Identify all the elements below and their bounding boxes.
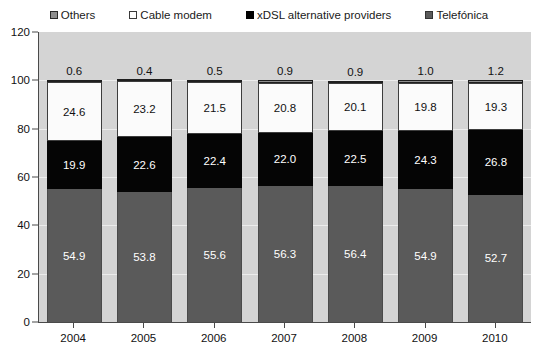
bar-value-label: 22.4 xyxy=(204,155,226,167)
x-axis-tick-mark xyxy=(73,323,74,328)
legend-item-telefonica: Telefónica xyxy=(425,9,488,21)
bar-segment-telefonica[interactable]: 56.4 xyxy=(328,186,383,322)
x-axis-label-2004: 2004 xyxy=(60,332,86,344)
x-axis-label-2005: 2005 xyxy=(131,332,157,344)
bar-segment-cable-modem[interactable]: 19.8 xyxy=(398,83,453,131)
chart-legend: Others Cable modem xDSL alternative prov… xyxy=(0,6,538,24)
legend-label-others: Others xyxy=(61,9,96,21)
bar-segment-telefonica[interactable]: 52.7 xyxy=(468,195,523,322)
legend-label-cable-modem: Cable modem xyxy=(140,9,212,21)
bar-value-label: 20.8 xyxy=(274,102,296,114)
bar-column-2010[interactable]: 52.726.819.31.2 xyxy=(468,32,523,322)
bar-value-label: 22.0 xyxy=(274,153,296,165)
stacked-bar-chart: Others Cable modem xDSL alternative prov… xyxy=(0,0,538,358)
x-axis-tick-mark xyxy=(284,323,285,328)
bar-segment-telefonica[interactable]: 54.9 xyxy=(47,189,102,322)
y-axis-tick-label: 120 xyxy=(11,26,30,38)
others-value-label: 0.5 xyxy=(187,65,242,77)
bar-column-2008[interactable]: 56.422.520.10.9 xyxy=(328,32,383,322)
cable-modem-swatch-icon xyxy=(129,11,137,19)
x-axis-label-2010: 2010 xyxy=(482,332,508,344)
bar-segment-xdsl[interactable]: 19.9 xyxy=(47,141,102,189)
y-axis-tick-label: 0 xyxy=(24,316,30,328)
x-axis-tick-mark xyxy=(143,323,144,328)
bar-value-label: 22.5 xyxy=(344,153,366,165)
bar-segment-others[interactable] xyxy=(328,81,383,83)
bar-segment-others[interactable] xyxy=(468,80,523,83)
x-axis-tick-mark xyxy=(425,323,426,328)
x-axis-tick-mark xyxy=(354,323,355,328)
others-swatch-icon xyxy=(50,11,58,19)
bar-segment-others[interactable] xyxy=(47,80,102,82)
bar-segment-others[interactable] xyxy=(258,80,313,82)
bar-value-label: 19.9 xyxy=(63,159,85,171)
others-value-label: 0.4 xyxy=(117,65,172,77)
others-value-label: 1.2 xyxy=(468,65,523,77)
y-axis-tick-label: 80 xyxy=(17,123,30,135)
bar-segment-xdsl[interactable]: 22.4 xyxy=(187,134,242,188)
telefonica-swatch-icon xyxy=(425,11,433,19)
bar-segment-xdsl[interactable]: 22.0 xyxy=(258,133,313,186)
bar-value-label: 54.9 xyxy=(63,250,85,262)
bar-segment-others[interactable] xyxy=(187,80,242,82)
bar-segment-cable-modem[interactable]: 24.6 xyxy=(47,82,102,141)
y-axis-tick-label: 20 xyxy=(17,268,30,280)
bar-segment-telefonica[interactable]: 54.9 xyxy=(398,189,453,322)
bar-value-label: 55.6 xyxy=(204,249,226,261)
bar-value-label: 56.4 xyxy=(344,248,366,260)
bar-segment-telefonica[interactable]: 56.3 xyxy=(258,186,313,322)
others-value-label: 1.0 xyxy=(398,65,453,77)
bar-column-2009[interactable]: 54.924.319.81.0 xyxy=(398,32,453,322)
bar-segment-cable-modem[interactable]: 19.3 xyxy=(468,83,523,130)
bar-value-label: 24.3 xyxy=(414,154,436,166)
bar-column-2005[interactable]: 53.822.623.20.4 xyxy=(117,32,172,322)
y-axis-tick-label: 60 xyxy=(17,171,30,183)
legend-label-telefonica: Telefónica xyxy=(436,9,488,21)
bar-value-label: 23.2 xyxy=(133,103,155,115)
legend-item-others: Others xyxy=(50,9,96,21)
bar-value-label: 21.5 xyxy=(204,102,226,114)
bar-value-label: 19.3 xyxy=(485,101,507,113)
bar-column-2006[interactable]: 55.622.421.50.5 xyxy=(187,32,242,322)
bar-segment-xdsl[interactable]: 22.5 xyxy=(328,131,383,185)
others-value-label: 0.6 xyxy=(47,65,102,77)
bar-segment-telefonica[interactable]: 55.6 xyxy=(187,188,242,322)
bar-value-label: 56.3 xyxy=(274,248,296,260)
x-axis: 2004200520062007200820092010 xyxy=(38,323,530,358)
bar-segment-xdsl[interactable]: 26.8 xyxy=(468,130,523,195)
legend-item-xdsl: xDSL alternative providers xyxy=(246,9,391,21)
bar-column-2004[interactable]: 54.919.924.60.6 xyxy=(47,32,102,322)
bar-value-label: 22.6 xyxy=(133,159,155,171)
others-value-label: 0.9 xyxy=(328,66,383,78)
bar-segment-xdsl[interactable]: 22.6 xyxy=(117,137,172,192)
y-axis: 020406080100120 xyxy=(0,32,38,323)
bar-value-label: 19.8 xyxy=(414,101,436,113)
plot-area: 54.919.924.60.653.822.623.20.455.622.421… xyxy=(38,32,531,323)
xdsl-swatch-icon xyxy=(246,11,254,19)
others-value-label: 0.9 xyxy=(258,65,313,77)
x-axis-tick-mark xyxy=(214,323,215,328)
x-axis-label-2008: 2008 xyxy=(341,332,367,344)
bar-segment-cable-modem[interactable]: 20.1 xyxy=(328,83,383,132)
bar-value-label: 20.1 xyxy=(344,101,366,113)
x-axis-tick-mark xyxy=(495,323,496,328)
x-axis-label-2009: 2009 xyxy=(412,332,438,344)
legend-item-cable-modem: Cable modem xyxy=(129,9,212,21)
x-axis-label-2006: 2006 xyxy=(201,332,227,344)
bar-segment-others[interactable] xyxy=(117,79,172,81)
bar-value-label: 26.8 xyxy=(485,156,507,168)
x-axis-label-2007: 2007 xyxy=(271,332,297,344)
bar-segment-cable-modem[interactable]: 20.8 xyxy=(258,83,313,133)
legend-label-xdsl: xDSL alternative providers xyxy=(257,9,391,21)
bar-segment-xdsl[interactable]: 24.3 xyxy=(398,131,453,190)
bar-segment-cable-modem[interactable]: 23.2 xyxy=(117,81,172,137)
bar-value-label: 54.9 xyxy=(414,250,436,262)
bar-value-label: 24.6 xyxy=(63,106,85,118)
bar-segment-telefonica[interactable]: 53.8 xyxy=(117,192,172,322)
bar-segment-others[interactable] xyxy=(398,80,453,82)
y-axis-tick-label: 40 xyxy=(17,219,30,231)
bar-value-label: 52.7 xyxy=(485,252,507,264)
bar-value-label: 53.8 xyxy=(133,251,155,263)
bar-column-2007[interactable]: 56.322.020.80.9 xyxy=(258,32,313,322)
bar-segment-cable-modem[interactable]: 21.5 xyxy=(187,82,242,134)
